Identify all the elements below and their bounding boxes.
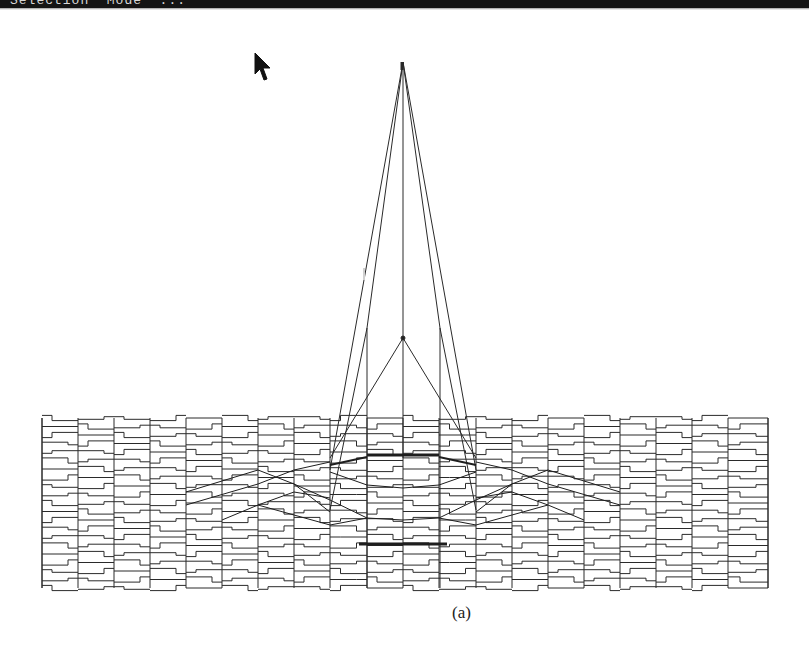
faint-mark [363, 268, 365, 280]
arrow-pointer-icon [254, 52, 274, 84]
figure-caption: (a) [452, 603, 471, 623]
drawing-canvas[interactable] [0, 0, 809, 662]
mesh-grid [42, 415, 768, 590]
